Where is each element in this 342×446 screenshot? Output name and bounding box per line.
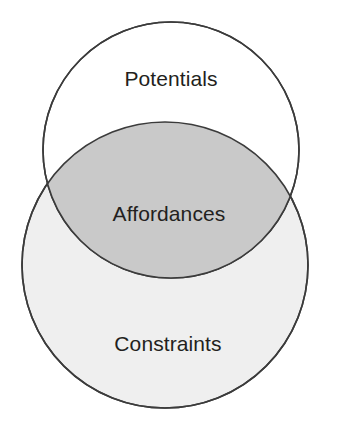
venn-diagram-canvas: Potentials Affordances Constraints xyxy=(0,0,342,446)
venn-diagram: Potentials Affordances Constraints xyxy=(0,0,342,446)
intersection-label-affordances: Affordances xyxy=(113,202,226,225)
set-label-potentials: Potentials xyxy=(124,67,217,90)
set-label-constraints: Constraints xyxy=(114,332,221,355)
